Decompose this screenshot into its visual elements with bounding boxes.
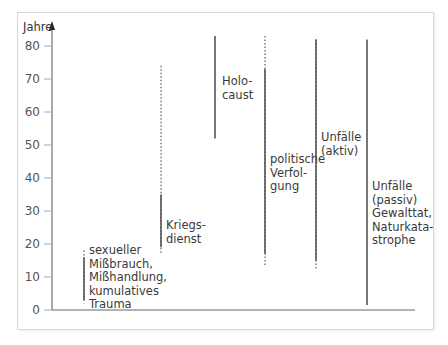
range-chart: Jahre01020304050607080 sexuellerMißbrauc… [0,0,448,345]
category-label: Trauma [88,297,132,311]
y-tick-label: 50 [25,138,40,152]
category-label: dienst [166,232,202,246]
y-tick-label: 60 [25,105,40,119]
range-lines: sexuellerMißbrauch,Mißhandlung,kumulativ… [84,36,433,311]
y-axis-label: Jahre [22,20,52,34]
category-label: strophe [372,233,416,247]
category-label: Naturkata- [372,220,433,234]
category-label: kumulatives [89,284,159,298]
category-label: politische [270,152,325,166]
y-tick-label: 10 [25,270,40,284]
category-label: caust [222,88,254,102]
category-label: Holo- [222,74,252,88]
category-label: gung [270,179,299,193]
category-label: Mißhandlung, [89,270,167,284]
axes: Jahre01020304050607080 [22,20,415,317]
y-tick-label: 0 [32,303,40,317]
category-label: Gewalttat, [372,206,432,220]
category-label: (aktiv) [321,144,358,158]
category-label: sexueller [89,243,141,257]
category-label: Mißbrauch, [89,257,153,271]
y-tick-label: 80 [25,39,40,53]
y-tick-label: 70 [25,72,40,86]
y-tick-label: 20 [25,237,40,251]
category-label: (passiv) [372,193,417,207]
category-label: Kriegs- [166,218,206,232]
y-tick-label: 40 [25,171,40,185]
category-label: Unfälle [372,179,412,193]
category-label: Verfol- [270,166,307,180]
category-label: Unfälle [321,130,361,144]
y-tick-label: 30 [25,204,40,218]
